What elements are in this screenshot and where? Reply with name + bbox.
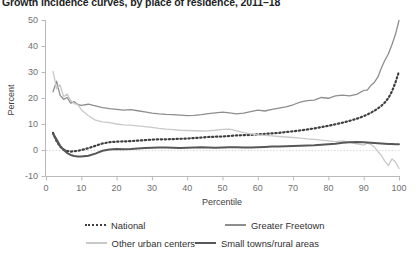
y-tick-label: 20 <box>28 93 38 103</box>
x-tick-label: 50 <box>217 183 227 193</box>
x-tick-label: 20 <box>112 183 122 193</box>
x-tick-label: 60 <box>253 183 263 193</box>
legend-swatch-other-urban-centers <box>86 238 107 248</box>
series-line-national <box>53 71 399 151</box>
legend-label-other-urban-centers: Other urban centers <box>112 238 195 249</box>
x-axis-title: Percentile <box>202 197 242 207</box>
y-axis-group: 50403020100-10 Percent <box>6 15 46 181</box>
legend-swatch-greater-freetown <box>225 220 246 230</box>
y-tick-label: -10 <box>25 171 38 181</box>
y-tick-label: 10 <box>28 119 38 129</box>
series-lines <box>53 21 399 169</box>
legend-label-national: National <box>111 220 145 231</box>
chart-legend: National Greater Freetown Other urban ce… <box>0 216 420 252</box>
y-axis-title: Percent <box>6 84 16 116</box>
series-line-small-towns-rural-areas <box>53 134 399 157</box>
y-tick-label: 50 <box>28 15 38 25</box>
y-tick-label: 40 <box>28 41 38 51</box>
y-tick-label: 30 <box>28 67 38 77</box>
x-tick-label: 0 <box>43 183 48 193</box>
y-axis-ticks: 50403020100-10 <box>25 15 46 181</box>
x-axis-ticks: 0102030405060708090100 <box>43 177 406 194</box>
x-tick-label: 10 <box>76 183 86 193</box>
legend-swatch-small-towns-rural-areas <box>195 238 216 248</box>
y-tick-label: 0 <box>33 145 38 155</box>
x-tick-label: 100 <box>391 183 406 193</box>
x-tick-label: 30 <box>147 183 157 193</box>
legend-item-small-towns-rural-areas[interactable]: Small towns/rural areas <box>195 238 365 249</box>
series-line-greater-freetown <box>53 21 399 116</box>
series-line-other-urban-centers <box>53 71 399 168</box>
chart-plot-area: 50403020100-10 Percent 01020304050607080… <box>0 0 420 215</box>
legend-item-national[interactable]: National <box>25 220 225 231</box>
legend-label-greater-freetown: Greater Freetown <box>251 220 324 231</box>
x-tick-label: 80 <box>323 183 333 193</box>
legend-swatch-national <box>85 220 106 230</box>
x-tick-label: 70 <box>288 183 298 193</box>
legend-label-small-towns-rural-areas: Small towns/rural areas <box>221 238 319 249</box>
growth-incidence-chart: Growth incidence curves, by place of res… <box>0 0 420 255</box>
legend-item-greater-freetown[interactable]: Greater Freetown <box>225 220 395 231</box>
x-tick-label: 40 <box>182 183 192 193</box>
legend-row-1: National Greater Freetown <box>0 216 420 234</box>
legend-row-2: Other urban centers Small towns/rural ar… <box>0 234 420 252</box>
x-tick-label: 90 <box>359 183 369 193</box>
legend-item-other-urban-centers[interactable]: Other urban centers <box>55 238 195 249</box>
x-axis-group: 0102030405060708090100 Percentile <box>43 177 406 208</box>
